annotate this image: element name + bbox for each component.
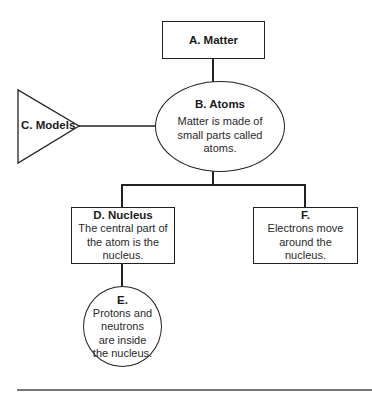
- node-b-text: Matter is made of small parts called ato…: [172, 115, 268, 156]
- node-b-title: B. Atoms: [195, 97, 245, 111]
- node-f-text: Electrons move around the nucleus.: [266, 222, 345, 263]
- node-e-title: E.: [117, 293, 128, 307]
- node-f: F. Electrons move around the nucleus.: [253, 207, 358, 264]
- node-d-text: The central part of the atom is the nucl…: [76, 222, 170, 263]
- node-c-label: C. Models: [21, 119, 75, 131]
- node-d-nucleus: D. Nucleus The central part of the atom …: [71, 207, 175, 264]
- node-d-title: D. Nucleus: [93, 208, 152, 222]
- node-f-title: F.: [301, 208, 310, 222]
- node-e-text: Protons and neutrons are inside the nucl…: [92, 307, 153, 361]
- node-b-atoms: B. Atoms Matter is made of small parts c…: [155, 81, 285, 172]
- node-a-title: A. Matter: [189, 33, 238, 47]
- node-a-matter: A. Matter: [162, 21, 265, 59]
- connector-lines: [0, 0, 372, 394]
- node-e: E. Protons and neutrons are inside the n…: [83, 286, 162, 367]
- bottom-divider: [17, 389, 372, 391]
